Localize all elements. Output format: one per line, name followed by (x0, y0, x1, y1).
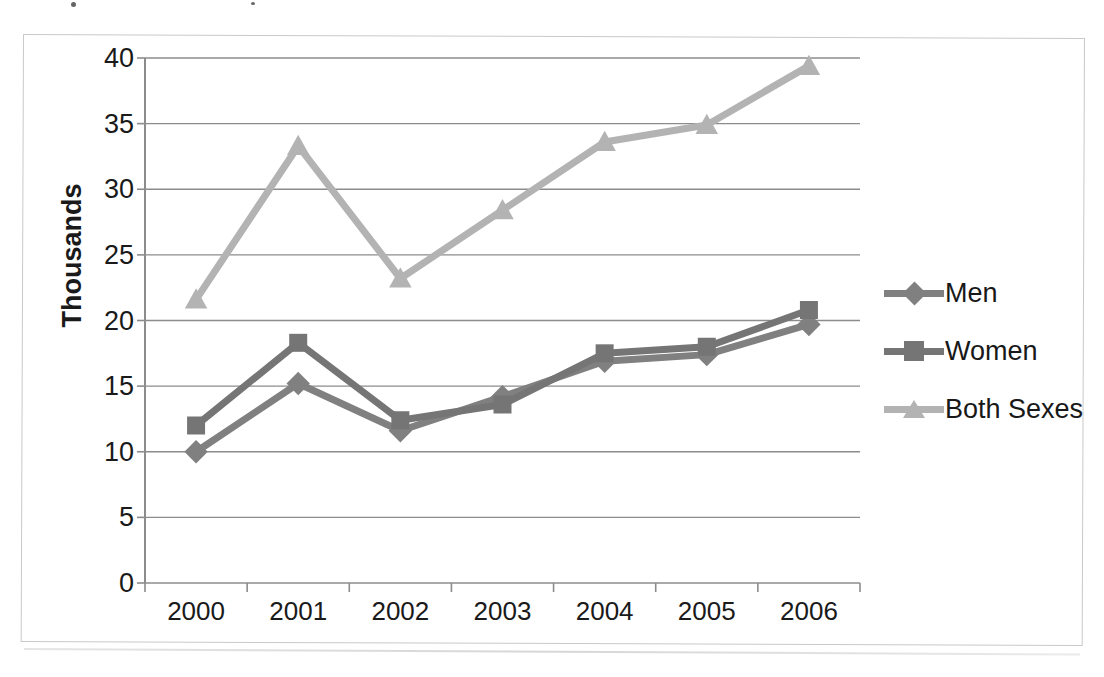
y-axis-tick-15: 15 (70, 371, 134, 402)
scan-speck-icon (251, 2, 255, 5)
legend-swatch-icon (884, 396, 944, 422)
data-point-marker (596, 344, 614, 362)
data-point-marker (187, 417, 205, 435)
series-men (184, 313, 820, 464)
legend-swatch-icon (884, 280, 944, 306)
gridlines (137, 58, 860, 592)
y-axis-tick-20: 20 (70, 305, 134, 336)
x-axis-tick-labels: 2000200120022003200420052006 (145, 596, 860, 638)
legend-marker-triangle-icon (903, 400, 925, 418)
scan-speck-icon (71, 2, 76, 7)
legend-label: Both Sexes (945, 394, 1083, 425)
scan-shadow (24, 648, 1080, 656)
x-axis-tick-2001: 2001 (243, 596, 353, 627)
data-point-marker (289, 334, 307, 352)
y-axis-tick-40: 40 (70, 43, 134, 74)
legend-label: Men (945, 278, 998, 309)
x-axis-tick-2003: 2003 (448, 596, 558, 627)
legend-label: Women (945, 336, 1038, 367)
data-point-marker (391, 411, 409, 429)
data-point-marker (494, 396, 512, 414)
plot-area (145, 58, 860, 583)
x-axis-tick-2002: 2002 (345, 596, 455, 627)
x-axis-tick-2005: 2005 (652, 596, 762, 627)
legend-item-men[interactable]: Men (884, 266, 1084, 320)
legend-item-both-sexes[interactable]: Both Sexes (884, 382, 1084, 436)
y-axis-tick-35: 35 (70, 108, 134, 139)
y-axis-tick-0: 0 (70, 568, 134, 599)
x-axis-tick-2006: 2006 (754, 596, 864, 627)
y-axis-tick-5: 5 (70, 502, 134, 533)
chart-screenshot: Thousands 0510152025303540 2000200120022… (0, 0, 1104, 677)
y-axis-tick-10: 10 (70, 436, 134, 467)
y-axis-tick-25: 25 (70, 239, 134, 270)
legend-item-women[interactable]: Women (884, 324, 1084, 378)
x-axis-tick-2004: 2004 (550, 596, 660, 627)
data-point-marker (287, 135, 310, 155)
legend-marker-diamond-icon (902, 281, 926, 305)
data-point-marker (800, 301, 818, 319)
y-axis-tick-30: 30 (70, 174, 134, 205)
legend-marker-square-icon (904, 341, 924, 361)
chart-legend: MenWomenBoth Sexes (884, 266, 1084, 440)
series-both-sexes (185, 55, 820, 309)
y-axis-tick-labels: 0510152025303540 (62, 58, 134, 583)
plot-svg (145, 58, 860, 583)
series-line (196, 66, 809, 300)
data-series-group (184, 55, 820, 464)
data-point-marker (698, 338, 716, 356)
x-axis-tick-2000: 2000 (141, 596, 251, 627)
legend-swatch-icon (884, 338, 944, 364)
